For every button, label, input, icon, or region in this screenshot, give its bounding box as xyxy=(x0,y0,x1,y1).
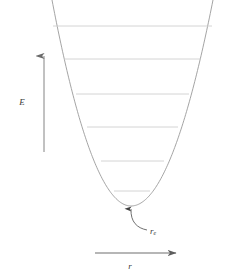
curved-arrow-icon xyxy=(131,209,147,230)
energy-axis-label: E xyxy=(18,97,25,107)
equilibrium-label: re xyxy=(150,226,157,237)
distance-axis: r xyxy=(95,253,176,271)
equilibrium-label-sub: e xyxy=(154,231,157,237)
harmonic-oscillator-figure: E r re xyxy=(0,0,225,276)
figure-canvas: E r re xyxy=(0,0,225,276)
energy-axis: E xyxy=(18,56,44,152)
potential-energy-curve xyxy=(52,0,213,206)
distance-axis-label: r xyxy=(128,261,132,271)
equilibrium-bond-length-annotation: re xyxy=(131,209,157,237)
parabola-path xyxy=(52,0,213,206)
